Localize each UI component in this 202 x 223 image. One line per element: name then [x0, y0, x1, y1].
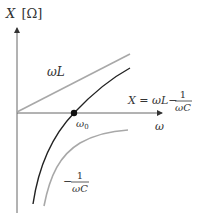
inductive-reactance-label: ωL	[47, 65, 65, 79]
resonance-point	[71, 110, 77, 116]
svg-text:1: 1	[180, 89, 186, 100]
total-reactance-label: X = ωL− 1 ωC	[127, 89, 192, 113]
svg-text:X = ωL−: X = ωL−	[127, 94, 178, 107]
svg-text:ωC: ωC	[175, 102, 191, 113]
svg-text:ωC: ωC	[72, 183, 88, 194]
capacitive-reactance-label: − 1 ωC	[63, 170, 89, 194]
svg-text:1: 1	[77, 170, 83, 181]
svg-text:−: −	[63, 175, 72, 188]
capacitive-reactance-curve	[44, 130, 128, 206]
inductive-reactance-line	[17, 54, 130, 112]
resonance-label: ω0	[76, 118, 89, 131]
x-axis-label: ω	[155, 120, 164, 133]
reactance-diagram: X [Ω] ω ωL ω0 X = ωL− 1 ωC − 1 ωC	[0, 0, 202, 223]
y-axis-label: X [Ω]	[5, 6, 42, 21]
